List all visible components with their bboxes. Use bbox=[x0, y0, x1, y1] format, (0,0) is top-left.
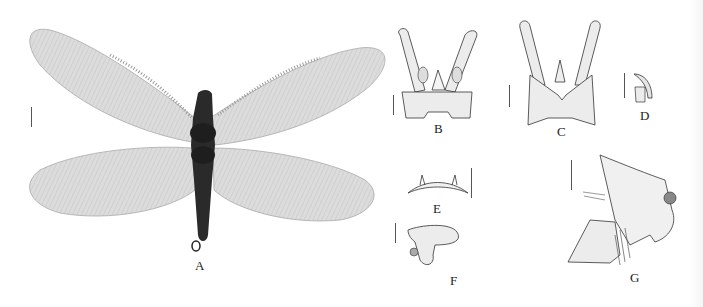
panel-a-habitus: A bbox=[0, 0, 390, 307]
lobed-sclerite-illustration bbox=[395, 220, 480, 307]
scale-bar-f bbox=[395, 223, 396, 243]
scale-bar-d bbox=[624, 73, 625, 98]
page-edge-shadow bbox=[689, 0, 703, 307]
gonostylus-illustration bbox=[620, 60, 680, 125]
panel-g-terminalia-lateral: G bbox=[560, 150, 690, 307]
panel-label-c: C bbox=[557, 124, 566, 140]
panel-b-genitalia-dorsal: B bbox=[380, 0, 490, 145]
scale-bar-c bbox=[509, 85, 510, 107]
panel-label-e: E bbox=[433, 201, 441, 217]
scale-bar-a bbox=[31, 107, 32, 127]
panel-label-b: B bbox=[434, 121, 443, 137]
scale-bar-b bbox=[393, 95, 394, 115]
panel-f-lobed-sclerite: F bbox=[395, 220, 480, 307]
terminalia-illustration bbox=[560, 150, 690, 307]
panel-label-d: D bbox=[640, 108, 649, 124]
panel-label-a: A bbox=[195, 258, 204, 274]
panel-d-gonostylus: D bbox=[620, 60, 680, 125]
panel-e-sclerite: E bbox=[400, 165, 480, 210]
panel-label-f: F bbox=[450, 273, 457, 289]
scale-bar-g bbox=[571, 160, 572, 190]
scale-bar-e bbox=[471, 168, 472, 198]
panel-label-g: G bbox=[630, 270, 639, 286]
panel-c-genitalia-ventral: C bbox=[510, 0, 620, 145]
